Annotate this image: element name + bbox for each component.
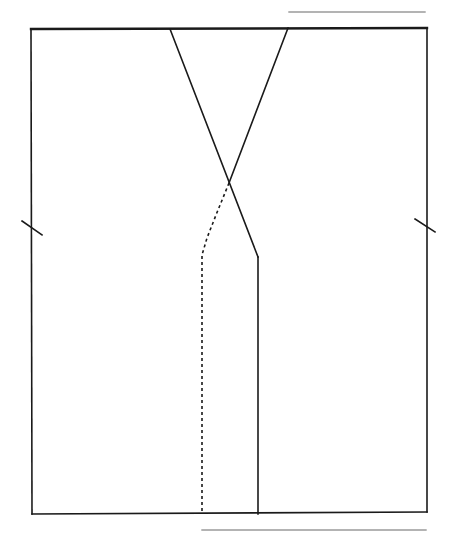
dashed-hidden-line bbox=[202, 183, 229, 511]
diagram-svg bbox=[0, 0, 461, 538]
frame-top-edge bbox=[31, 28, 427, 29]
frame-left-edge bbox=[31, 29, 32, 514]
frame-bottom-edge bbox=[32, 512, 427, 514]
diagram-canvas bbox=[0, 0, 461, 538]
right-diagonal-line bbox=[229, 28, 288, 183]
right-tick-mark bbox=[415, 219, 435, 232]
